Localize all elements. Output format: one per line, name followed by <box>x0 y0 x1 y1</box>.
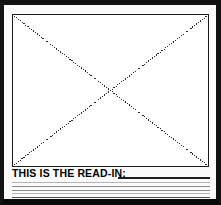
read-in-rule-line <box>12 182 210 183</box>
placeholder-x-graphic <box>13 15 208 166</box>
read-in-rule-line <box>12 186 210 187</box>
screenshot-root: THIS IS THE READ-IN: <box>0 0 221 205</box>
image-placeholder-box[interactable] <box>12 14 209 167</box>
read-in-section: THIS IS THE READ-IN: <box>12 168 210 199</box>
read-in-rule-line <box>12 197 210 198</box>
read-in-label: THIS IS THE READ-IN: <box>12 168 126 179</box>
read-in-rule-line <box>12 193 210 194</box>
read-in-lead-rule <box>118 177 210 179</box>
read-in-rule-line <box>12 190 210 191</box>
